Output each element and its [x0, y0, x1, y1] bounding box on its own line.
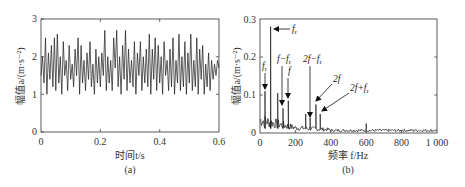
y-tick-label: 1	[32, 89, 37, 100]
figure: 0 1 2 3 0 0.2 0.4 0.6 时间t/s 幅值a/(m·s⁻²) …	[0, 0, 465, 187]
caption-a: (a)	[124, 164, 135, 176]
x-tick-label: 0.4	[153, 136, 166, 147]
x-tick-label: 200	[288, 137, 303, 148]
annotation-fr-main: fr	[292, 24, 298, 36]
y-tick-label: 0.3	[244, 14, 257, 25]
y-tick-label: 0.2	[244, 51, 257, 62]
y-tick-label: 2	[32, 51, 37, 62]
x-tick-label: 800	[394, 137, 409, 148]
x-axis-label-b: 频率 f/Hz	[328, 149, 369, 161]
annotation-fr-low: fr	[262, 61, 268, 73]
annotation-2f: 2f	[333, 74, 342, 84]
panel-b: 0 0.1 0.2 0.3 0 200 400 600 800 1 000 fr…	[230, 14, 448, 176]
y-axis-label-b: 幅值a/(m·s⁻²)	[230, 47, 243, 104]
annotation-f: f	[288, 66, 292, 76]
annotation-2f-plus-fr: 2f+fr	[350, 83, 369, 95]
annotation-f-minus-fr: f−fr	[277, 54, 292, 66]
time-signal-line	[41, 30, 219, 94]
panel-a: 0 1 2 3 0 0.2 0.4 0.6 时间t/s 幅值a/(m·s⁻²) …	[14, 13, 225, 176]
y-tick-label: 0.1	[244, 89, 257, 100]
axes-frame-b	[260, 19, 437, 133]
x-tick-label: 0	[258, 137, 263, 148]
x-tick-label: 0	[39, 136, 44, 147]
y-tick-label: 0	[251, 127, 256, 138]
annotation-2f-minus-fr: 2f−fr	[303, 54, 322, 66]
spectrum-annotations: fr fr f−fr f 2f−fr 2f 2f+fr	[262, 24, 369, 117]
y-tick-label: 3	[32, 13, 37, 24]
x-axis-label-a: 时间t/s	[115, 149, 145, 161]
x-tick-label: 0.6	[213, 136, 226, 147]
y-axis-label-a: 幅值a/(m·s⁻²)	[14, 47, 27, 104]
x-axis-a: 0 0.2 0.4 0.6	[39, 19, 226, 147]
arrow-icon	[316, 84, 332, 101]
caption-b: (b)	[342, 164, 354, 176]
x-tick-label: 400	[323, 137, 338, 148]
x-tick-label: 1 000	[426, 137, 449, 148]
x-tick-label: 0.2	[94, 136, 107, 147]
x-tick-label: 600	[359, 137, 374, 148]
spectrum-line	[260, 27, 437, 132]
y-tick-label: 0	[32, 126, 37, 137]
arrow-icon	[322, 93, 349, 111]
